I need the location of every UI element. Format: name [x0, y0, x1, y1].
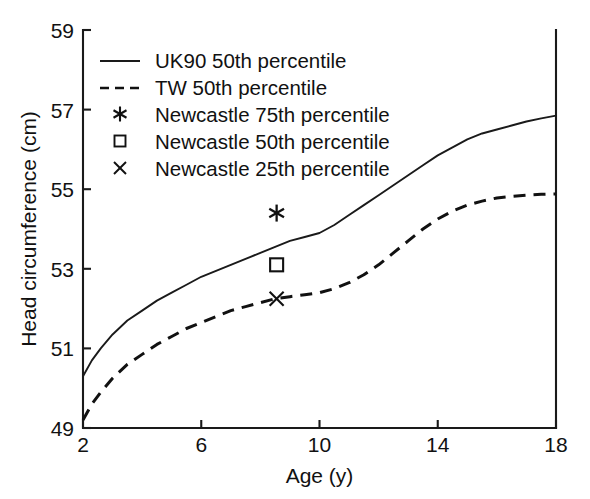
y-tick-label-57: 57 — [51, 99, 74, 122]
y-tick-label-53: 53 — [51, 258, 74, 281]
x-axis-title: Age (y) — [286, 464, 354, 487]
legend-label-uk90-50th: UK90 50th percentile — [155, 49, 346, 72]
y-tick-label-49: 49 — [51, 417, 74, 440]
y-tick-label-55: 55 — [51, 178, 74, 201]
legend-label-newcastle-25th: Newcastle 25th percentile — [155, 157, 390, 180]
legend-label-tw-50th: TW 50th percentile — [155, 76, 327, 99]
y-tick-label-59: 59 — [51, 19, 74, 42]
legend-label-newcastle-75th: Newcastle 75th percentile — [155, 103, 390, 126]
chart-figure: 59 57 55 53 51 49 2 6 10 14 18 Age (y) H… — [0, 0, 590, 499]
y-axis-title: Head circumference (cm) — [17, 111, 40, 347]
x-tick-label-18: 18 — [544, 433, 567, 456]
head-circumference-line-chart: 59 57 55 53 51 49 2 6 10 14 18 Age (y) H… — [0, 0, 590, 499]
x-tick-label-10: 10 — [308, 433, 331, 456]
x-tick-label-14: 14 — [426, 433, 450, 456]
x-tick-label-6: 6 — [195, 433, 207, 456]
x-tick-label-2: 2 — [77, 433, 89, 456]
legend-label-newcastle-50th: Newcastle 50th percentile — [155, 130, 390, 153]
y-tick-label-51: 51 — [51, 337, 74, 360]
